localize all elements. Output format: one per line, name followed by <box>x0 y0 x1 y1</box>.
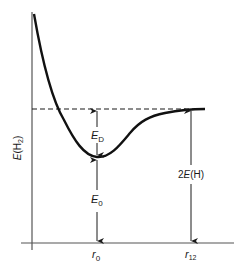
r12-label: r12 <box>185 248 197 261</box>
e0-sub: 0 <box>98 199 103 208</box>
r0-label: r0 <box>92 248 101 263</box>
ed-sub: D <box>98 135 104 144</box>
potential-energy-diagram: E(H2) ED E0 2E(H) r0 r12 <box>0 0 235 267</box>
e0-label: E0 <box>91 193 103 208</box>
2eh-suffix: (H) <box>190 169 204 180</box>
y-axis-label: E(H2) <box>12 136 24 160</box>
2eh-label: 2E(H) <box>178 169 204 180</box>
r12-sub: 12 <box>189 254 197 261</box>
y-label-paren: (H <box>12 143 23 154</box>
ed-label: ED <box>91 129 104 144</box>
r0-sub: 0 <box>96 254 101 263</box>
potential-energy-curve <box>34 14 205 157</box>
y-label-close: ) <box>12 136 23 139</box>
